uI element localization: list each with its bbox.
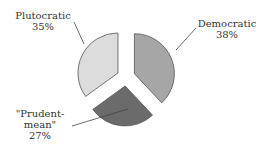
label-democratic-name: Democratic [196,18,258,29]
label-democratic: Democratic 38% [196,18,258,40]
slice-prudent-mean [93,86,153,126]
label-democratic-value: 38% [196,29,258,40]
label-plutocratic-value: 35% [14,21,72,32]
label-plutocratic: Plutocratic 35% [14,10,72,32]
label-prudent-mean-line2: mean" [12,119,68,130]
label-plutocratic-name: Plutocratic [14,10,72,21]
pie-slices [78,33,174,126]
slice-plutocratic [78,33,118,97]
label-prudent-mean-value: 27% [12,130,68,141]
label-prudent-mean: "Prudent- mean" 27% [12,108,68,141]
label-prudent-mean-line1: "Prudent- [12,108,68,119]
leader-line-plutocratic [74,22,84,44]
leader-line-democratic [176,28,196,50]
slice-democratic [134,34,174,103]
